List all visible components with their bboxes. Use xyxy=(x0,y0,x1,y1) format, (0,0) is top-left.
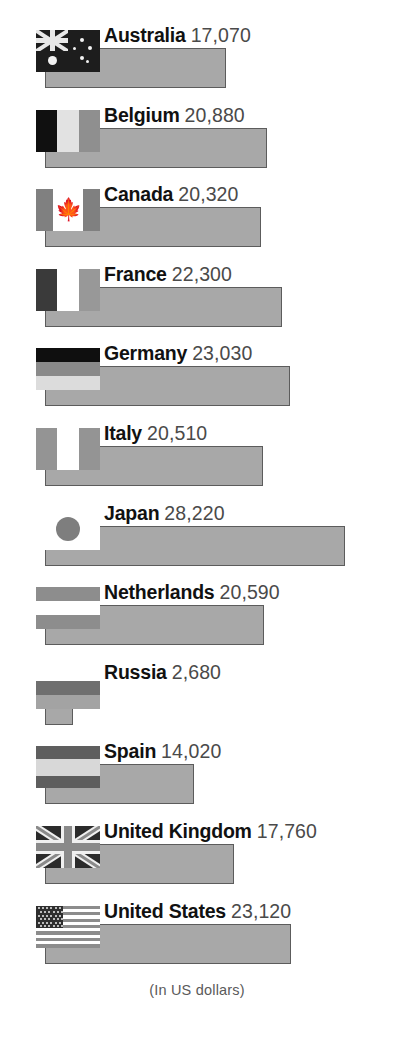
country-label: Russia xyxy=(104,661,167,683)
value-label: 20,880 xyxy=(185,104,245,126)
chart-row: Germany23,030 xyxy=(0,340,394,420)
country-label: Canada xyxy=(104,183,173,205)
flag-united-states-icon xyxy=(36,906,100,948)
country-label: Germany xyxy=(104,342,187,364)
value-label: 20,320 xyxy=(178,183,238,205)
chart-row: Italy20,510 xyxy=(0,420,394,500)
value-label: 2,680 xyxy=(172,661,221,683)
flag-spain-icon xyxy=(36,746,100,788)
chart-row: Belgium20,880 xyxy=(0,102,394,182)
flag-japan-icon xyxy=(36,508,100,550)
chart-row: Spain14,020 xyxy=(0,738,394,818)
country-label: Belgium xyxy=(104,104,180,126)
chart-row: Australia17,070 xyxy=(0,22,394,102)
flag-netherlands-icon xyxy=(36,587,100,629)
country-label: Australia xyxy=(104,24,186,46)
chart-footnote: (In US dollars) xyxy=(0,982,394,998)
value-label: 28,220 xyxy=(164,502,224,524)
chart-row: Japan28,220 xyxy=(0,500,394,580)
flag-united-kingdom-icon xyxy=(36,826,100,868)
country-label: United Kingdom xyxy=(104,820,252,842)
country-label: France xyxy=(104,263,167,285)
value-label: 17,070 xyxy=(191,24,251,46)
union-jack-canton xyxy=(36,30,68,51)
chart-row: France22,300 xyxy=(0,261,394,341)
value-label: 20,510 xyxy=(147,422,207,444)
flag-australia-icon xyxy=(36,30,100,72)
country-label: Japan xyxy=(104,502,159,524)
country-label: United States xyxy=(104,900,226,922)
maple-leaf-icon: 🍁 xyxy=(55,199,82,221)
value-label: 17,760 xyxy=(257,820,317,842)
chart-row: Canada20,320🍁 xyxy=(0,181,394,261)
flag-belgium-icon xyxy=(36,110,100,152)
chart-row: United Kingdom17,760 xyxy=(0,818,394,898)
country-label: Netherlands xyxy=(104,581,215,603)
flag-canada-icon: 🍁 xyxy=(36,189,100,231)
country-label: Spain xyxy=(104,740,156,762)
flag-italy-icon xyxy=(36,428,100,470)
value-label: 14,020 xyxy=(161,740,221,762)
chart-row: United States23,120 xyxy=(0,898,394,978)
flag-france-icon xyxy=(36,269,100,311)
value-label: 23,120 xyxy=(231,900,291,922)
value-label: 23,030 xyxy=(192,342,252,364)
chart-row: Russia2,680 xyxy=(0,659,394,739)
country-label: Italy xyxy=(104,422,142,444)
value-label: 20,590 xyxy=(220,581,280,603)
stars-canton xyxy=(36,906,63,929)
sun-disc-icon xyxy=(56,517,80,541)
value-label: 22,300 xyxy=(172,263,232,285)
chart-row: Netherlands20,590 xyxy=(0,579,394,659)
flag-germany-icon xyxy=(36,348,100,390)
flag-russia-icon xyxy=(36,667,100,709)
bar-chart: Australia17,070Belgium20,880Canada20,320… xyxy=(0,0,394,1045)
